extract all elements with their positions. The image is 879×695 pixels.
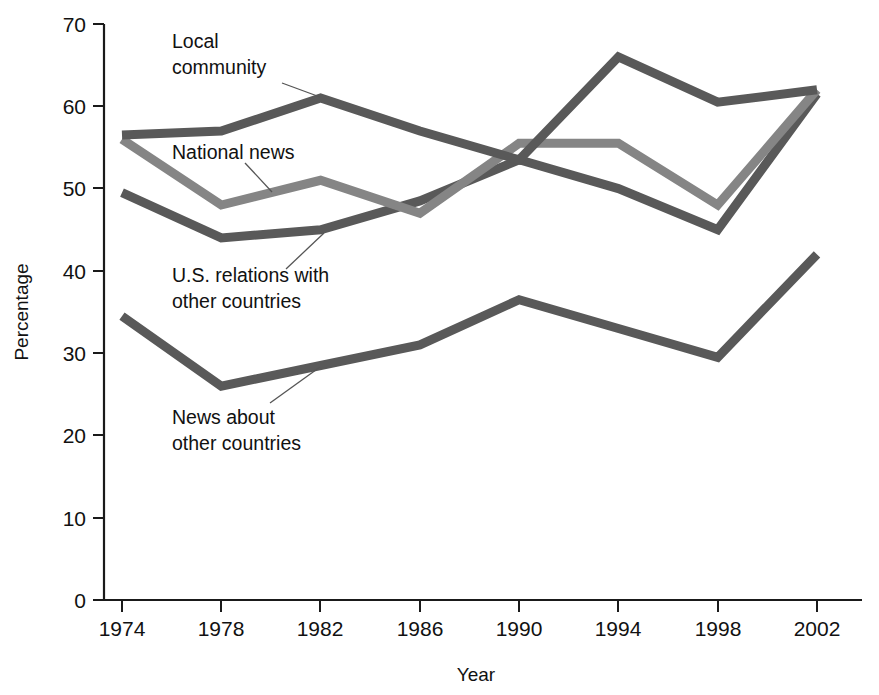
axis-group: 70 60 50 40 30 20 10 0 1974 1978 1982 19…: [11, 13, 862, 685]
leader-local-community: [282, 83, 320, 97]
y-tick-label: 40: [63, 260, 86, 283]
x-tick-label: 1990: [496, 617, 543, 640]
y-tick-marks: [93, 24, 104, 600]
y-tick-label: 20: [63, 424, 86, 447]
leader-national-news: [245, 163, 272, 192]
series-group: [122, 57, 817, 386]
x-tick-label: 1998: [695, 617, 742, 640]
series-label-us-relations-line2: other countries: [172, 290, 301, 312]
series-label-us-relations-line1: U.S. relations with: [172, 264, 329, 286]
series-label-local-community-line2: community: [172, 56, 267, 78]
y-tick-label: 10: [63, 507, 86, 530]
y-tick-label: 30: [63, 342, 86, 365]
x-tick-label: 1974: [99, 617, 146, 640]
x-tick-label: 1982: [297, 617, 344, 640]
series-label-local-community-line1: Local: [172, 30, 219, 52]
series-labels: Local community National news U.S. relat…: [172, 30, 329, 454]
series-label-news-other-line2: other countries: [172, 432, 301, 454]
line-chart: 70 60 50 40 30 20 10 0 1974 1978 1982 19…: [0, 0, 879, 695]
x-tick-label: 1986: [397, 617, 444, 640]
series-label-national-news: National news: [172, 141, 295, 163]
x-tick-marks: [122, 600, 817, 612]
y-tick-label: 50: [63, 177, 86, 200]
series-label-news-other-line1: News about: [172, 406, 276, 428]
x-tick-label: 1994: [595, 617, 642, 640]
y-tick-label: 60: [63, 95, 86, 118]
y-tick-label: 70: [63, 13, 86, 36]
y-tick-labels: 70 60 50 40 30 20 10 0: [63, 13, 86, 612]
x-tick-label: 1978: [198, 617, 245, 640]
annotation-leaders: [245, 83, 324, 403]
chart-canvas: 70 60 50 40 30 20 10 0 1974 1978 1982 19…: [0, 0, 879, 695]
series-line-u-s-relations-with-other-countries: [122, 94, 817, 238]
x-tick-labels: 1974 1978 1982 1986 1990 1994 1998 2002: [99, 617, 841, 640]
y-axis-title: Percentage: [11, 263, 32, 360]
x-axis-title: Year: [457, 664, 496, 685]
y-tick-label: 0: [74, 589, 86, 612]
x-tick-label: 2002: [794, 617, 841, 640]
